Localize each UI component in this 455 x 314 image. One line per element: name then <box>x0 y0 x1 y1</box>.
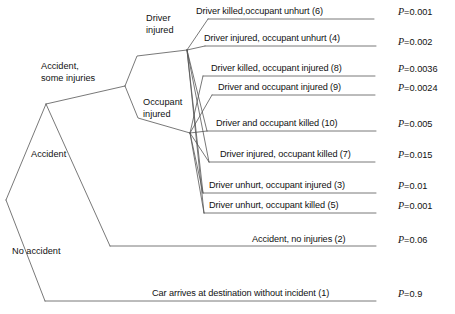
p-value: 0.001 <box>409 7 432 17</box>
probability-label-10: P=0.005 <box>398 118 432 130</box>
p-value: 0.015 <box>409 150 432 160</box>
p-value: 0.0036 <box>409 64 437 74</box>
p-value: 0.9 <box>409 289 422 299</box>
node-label-occupant-injured: Occupant injured <box>143 97 182 120</box>
probability-label-6: P=0.001 <box>398 6 432 18</box>
probability-tree-figure: Accident No accident Accident, some inju… <box>0 0 455 314</box>
probability-label-2: P=0.06 <box>398 234 427 246</box>
outcome-label-5: Driver unhurt, occupant killed (5) <box>209 200 338 211</box>
node-label-occupant-injured-line1: Occupant <box>143 97 182 109</box>
probability-label-5: P=0.001 <box>398 200 432 212</box>
node-label-driver-injured-line2: injured <box>146 25 174 37</box>
probability-label-9: P=0.0024 <box>398 82 438 94</box>
outcome-label-6: Driver killed,occupant unhurt (6) <box>196 6 323 17</box>
node-label-driver-injured-line1: Driver <box>146 13 174 25</box>
probability-label-1: P=0.9 <box>398 288 422 300</box>
p-value: 0.001 <box>409 201 432 211</box>
node-label-some-injuries-line2: some injuries <box>41 73 95 85</box>
outcome-label-3: Driver unhurt, occupant injured (3) <box>209 180 345 191</box>
node-label-occupant-injured-line2: injured <box>143 109 182 121</box>
node-label-accident: Accident <box>31 149 66 161</box>
probability-label-4: P=0.002 <box>398 36 432 48</box>
outcome-label-8: Driver killed, occupant injured (8) <box>211 63 342 74</box>
branch-some-injuries-driver <box>125 50 187 86</box>
branch-occupant-outcome-8 <box>190 76 203 133</box>
outcome-label-7: Driver injured, occupant killed (7) <box>220 149 351 160</box>
outcome-label-4: Driver injured, occupant unhurt (4) <box>204 33 340 44</box>
node-label-driver-injured: Driver injured <box>146 13 174 36</box>
p-value: 0.002 <box>409 37 432 47</box>
p-value: 0.005 <box>409 119 432 129</box>
node-label-accident-text: Accident <box>31 149 66 161</box>
outcome-label-2: Accident, no injuries (2) <box>252 234 346 245</box>
p-value: 0.01 <box>409 181 427 191</box>
outcome-label-10: Driver and occupant killed (10) <box>216 118 338 129</box>
probability-label-7: P=0.015 <box>398 149 432 161</box>
branch-accident-some-injuries <box>46 86 125 104</box>
p-value: 0.0024 <box>409 83 437 93</box>
node-label-no-accident-text: No accident <box>12 246 61 258</box>
probability-label-3: P=0.01 <box>398 180 427 192</box>
outcome-label-9: Driver and occupant injured (9) <box>218 82 341 93</box>
outcome-label-1: Car arrives at destination without incid… <box>152 288 329 299</box>
p-value: 0.06 <box>409 235 427 245</box>
probability-label-8: P=0.0036 <box>398 63 438 75</box>
branch-occupant-outcome-10b <box>190 131 207 133</box>
branch-accident-no-injuries <box>46 104 110 246</box>
node-label-no-accident: No accident <box>12 246 61 258</box>
node-label-some-injuries-line1: Accident, <box>41 61 95 73</box>
branch-driver-outcome-10 <box>187 50 207 131</box>
node-label-some-injuries: Accident, some injuries <box>41 61 95 84</box>
